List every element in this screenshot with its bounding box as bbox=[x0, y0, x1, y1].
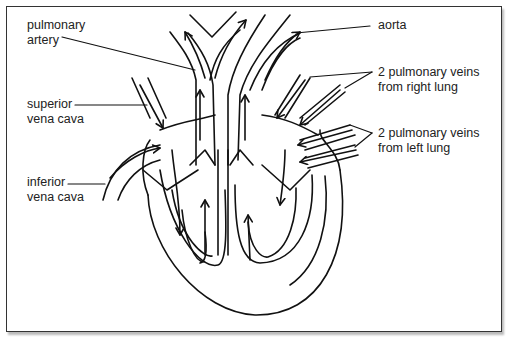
label-inferior-vena-cava: inferior vena cava bbox=[27, 175, 84, 205]
arch-right bbox=[262, 115, 318, 135]
aorta bbox=[228, 15, 300, 165]
pulmonary-veins-right bbox=[275, 75, 345, 125]
label-aorta: aorta bbox=[378, 18, 407, 33]
leader-lines bbox=[62, 26, 372, 184]
label-pulmonary-veins-left: 2 pulmonary veins from left lung bbox=[378, 126, 479, 156]
arch-left bbox=[160, 115, 215, 130]
pulmonary-artery bbox=[170, 12, 246, 165]
label-pulmonary-veins-right: 2 pulmonary veins from right lung bbox=[378, 65, 479, 95]
inferior-vena-cava bbox=[103, 145, 160, 200]
left-ventricle-walls bbox=[160, 170, 226, 265]
label-pulmonary-artery: pulmonary artery bbox=[27, 18, 85, 48]
superior-vena-cava bbox=[132, 78, 166, 128]
heart-diagram bbox=[0, 0, 510, 342]
label-superior-vena-cava: superior vena cava bbox=[27, 97, 84, 127]
